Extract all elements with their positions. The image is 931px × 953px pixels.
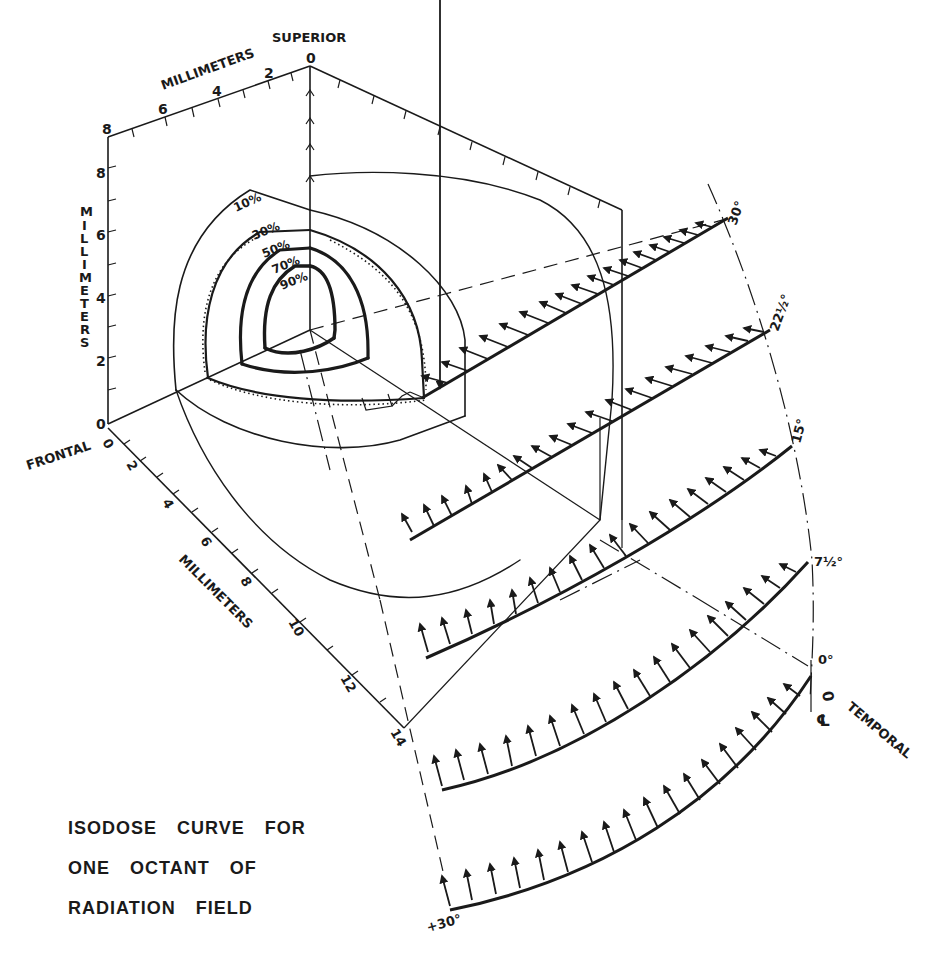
svg-text:0: 0 bbox=[96, 416, 106, 432]
superior-label: SUPERIOR bbox=[272, 30, 346, 45]
svg-text:6: 6 bbox=[197, 534, 215, 549]
svg-text:14: 14 bbox=[387, 726, 409, 749]
svg-text:0: 0 bbox=[306, 50, 316, 66]
svg-text:4: 4 bbox=[212, 83, 222, 99]
svg-text:0: 0 bbox=[99, 436, 117, 451]
svg-text:8: 8 bbox=[102, 121, 112, 137]
isodose-30: 30% bbox=[250, 219, 282, 243]
vector-fan-7-5 bbox=[434, 562, 808, 790]
svg-text:8: 8 bbox=[237, 574, 255, 589]
angle-plus-30: +30° bbox=[425, 911, 463, 935]
depth-axis-numbers: 0 2 4 6 8 10 12 14 bbox=[99, 436, 409, 749]
svg-text:8: 8 bbox=[96, 165, 106, 181]
svg-text:M: M bbox=[80, 204, 93, 219]
angle-7-5: 7½° bbox=[814, 554, 843, 569]
svg-text:4: 4 bbox=[159, 496, 177, 511]
right-edge-ticks bbox=[338, 80, 600, 208]
svg-text:4: 4 bbox=[96, 290, 106, 306]
svg-text:S: S bbox=[80, 335, 89, 350]
isodose-10: 10% bbox=[231, 190, 263, 215]
svg-text:2: 2 bbox=[123, 458, 141, 473]
svg-text:12: 12 bbox=[337, 672, 359, 695]
temporal-label: TEMPORAL bbox=[844, 699, 915, 762]
frontal-label: FRONTAL bbox=[24, 438, 92, 473]
vertical-axis-ticks bbox=[108, 166, 116, 390]
angle-labels: 30° 22½° 15° 7½° 0° +30° bbox=[425, 199, 843, 935]
svg-text:2: 2 bbox=[264, 65, 274, 81]
top-axis-title: MILLIMETERS bbox=[159, 45, 256, 93]
depth-axis-ticks bbox=[124, 440, 386, 702]
isodose-diagram: SUPERIOR MILLIMETERS FRONTAL MILLIMETERS… bbox=[0, 0, 931, 953]
angle-30: 30° bbox=[725, 199, 748, 227]
vector-fan-30 bbox=[422, 0, 728, 398]
caption-line-3: RADIATION FIELD bbox=[68, 898, 253, 919]
vertical-axis-numbers: 0 2 4 6 8 bbox=[96, 165, 106, 432]
caption-line-2: ONE OCTANT OF bbox=[68, 858, 257, 879]
vertical-axis-title: M I L L I M E T E R S bbox=[79, 204, 93, 350]
angle-22-5: 22½° bbox=[767, 292, 794, 333]
projection-lines bbox=[300, 218, 808, 880]
depth-axis-title: MILLIMETERS bbox=[176, 552, 256, 632]
svg-text:6: 6 bbox=[158, 101, 168, 117]
angle-15: 15° bbox=[788, 417, 809, 445]
svg-text:6: 6 bbox=[96, 227, 106, 243]
angle-0: 0° bbox=[818, 652, 834, 667]
vector-fan-15 bbox=[420, 446, 792, 658]
svg-text:2: 2 bbox=[96, 353, 106, 369]
caption-line-1: ISODOSE CURVE FOR bbox=[68, 818, 306, 839]
centerline-symbol: ℄ bbox=[816, 711, 830, 730]
temporal-zero: 0 bbox=[818, 690, 838, 703]
vector-fan-22-5 bbox=[402, 328, 770, 540]
